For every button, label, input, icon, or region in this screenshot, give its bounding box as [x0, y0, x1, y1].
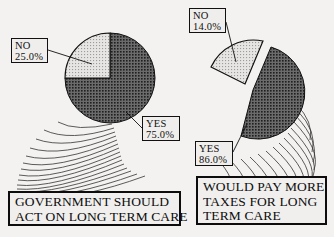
caption-line: TERM CARE [203, 209, 321, 224]
callout-label: YES [146, 118, 177, 129]
callout-value: 86.0% [199, 154, 230, 165]
pie-slice-no-left [65, 33, 110, 78]
fan-lines-left [17, 122, 145, 199]
pie-chart-would-pay-more-taxes [211, 22, 315, 198]
callout-value: 14.0% [193, 21, 223, 32]
caption-line: GOVERNMENT SHOULD [15, 195, 175, 210]
caption-line: ACT ON LONG TERM CARE [15, 210, 175, 225]
callout-label: NO [193, 10, 223, 21]
caption-line: TAXES FOR LONG [203, 195, 321, 210]
callout-value: 75.0% [146, 129, 177, 140]
infographic-canvas: NO 25.0% YES 75.0% NO 14.0% YES 86.0% GO… [0, 0, 334, 237]
leader-line-yes-right [233, 124, 247, 152]
callout-value: 25.0% [15, 51, 45, 62]
callout-yes-right: YES 86.0% [195, 141, 233, 166]
caption-government-should-act: GOVERNMENT SHOULD ACT ON LONG TERM CARE [8, 191, 181, 226]
pie-slice-no-right [211, 40, 263, 84]
caption-line: WOULD PAY MORE [203, 180, 321, 195]
callout-no-right: NO 14.0% [189, 8, 226, 33]
callout-yes-left: YES 75.0% [142, 116, 180, 141]
callout-label: YES [199, 143, 230, 154]
callout-no-left: NO 25.0% [11, 38, 48, 63]
callout-label: NO [15, 40, 45, 51]
caption-would-pay-more-taxes: WOULD PAY MORE TAXES FOR LONG TERM CARE [196, 176, 327, 225]
